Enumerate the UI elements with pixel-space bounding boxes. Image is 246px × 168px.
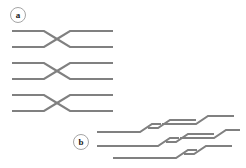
panel-b-label-text: b [78,137,83,147]
panel-b-label: b [74,135,89,150]
figure-canvas: a b [0,0,246,168]
panel-a-label-text: a [16,10,21,20]
panel-a-label: a [11,8,26,23]
figure-background [0,0,246,168]
figure-root: a b [0,0,246,168]
